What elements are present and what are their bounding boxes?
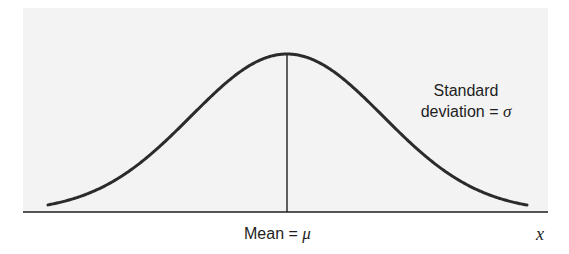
standard-deviation-label: Standard deviation = σ	[407, 80, 525, 122]
mean-label-text: Mean =	[244, 225, 302, 242]
sigma-symbol: σ	[503, 102, 511, 121]
mu-symbol: μ	[302, 224, 311, 243]
x-axis-label: x	[536, 224, 544, 244]
mean-label: Mean = μ	[244, 224, 311, 244]
bell-curve-plot	[0, 0, 569, 254]
normal-distribution-figure: Standard deviation = σ Mean = μ x	[0, 0, 569, 254]
sd-label-text: deviation =	[421, 103, 503, 120]
sd-label-line2: deviation = σ	[407, 101, 525, 122]
sd-label-line1: Standard	[407, 80, 525, 101]
